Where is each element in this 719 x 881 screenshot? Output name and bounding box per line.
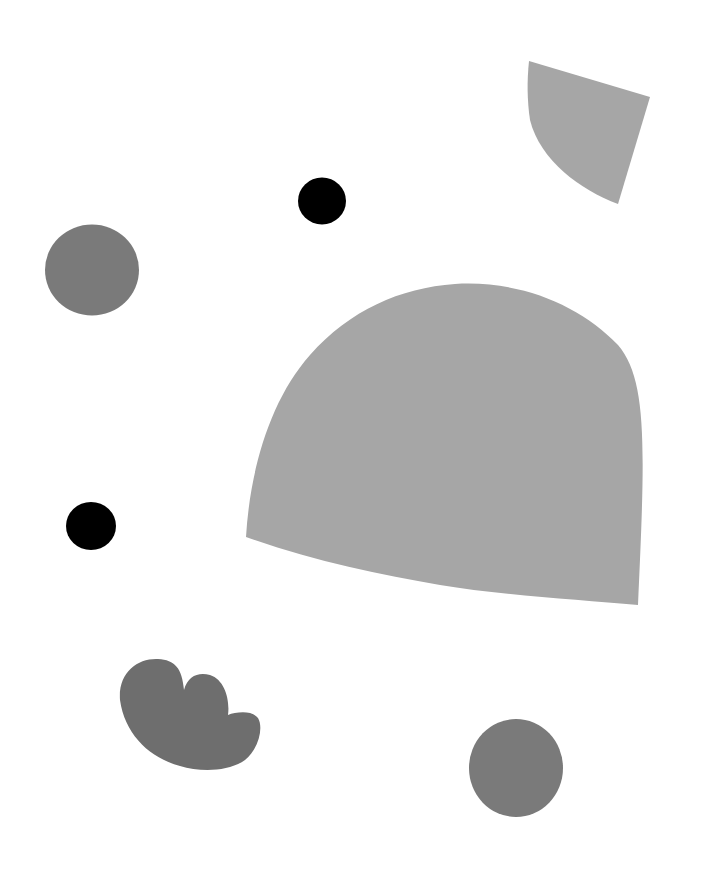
gray-circle-bottom [469,719,563,817]
small-black-circle-top [298,178,346,225]
composition-canvas [0,0,719,881]
small-black-circle-left [66,502,116,550]
gray-circle-left [45,225,139,316]
